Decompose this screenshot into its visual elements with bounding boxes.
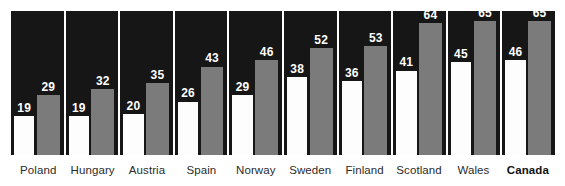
bar-series-b: [528, 21, 551, 155]
bar-series-a: [123, 114, 143, 155]
category-label-wales: Wales: [446, 160, 500, 180]
category-label-canada: Canada: [501, 160, 555, 180]
chart-panel: 45 65: [448, 11, 503, 155]
chart-panel: 26 43: [175, 11, 230, 155]
chart-panel: 36 53: [339, 11, 394, 155]
bar-series-a: [232, 95, 252, 155]
bar-series-a: [451, 62, 471, 155]
bar-value-label-a: 26: [178, 87, 198, 100]
bar-value-label-a: 46: [505, 46, 525, 59]
bar-series-b: [364, 46, 387, 155]
chart-panel: 19 29: [11, 11, 66, 155]
category-label-norway: Norway: [229, 160, 283, 180]
category-label-spain: Spain: [174, 160, 228, 180]
bar-series-b: [474, 21, 497, 155]
bar-value-label-a: 19: [69, 102, 89, 115]
bar-value-label-a: 36: [342, 67, 362, 80]
category-label-hungary: Hungary: [65, 160, 119, 180]
chart-panel: 29 46: [229, 11, 284, 155]
panel-bars: 29 46: [232, 11, 280, 155]
panel-bars: 36 53: [342, 11, 390, 155]
bar-series-b: [201, 67, 224, 155]
bar-value-label-a: 41: [396, 56, 416, 69]
panel-bars: 45 65: [451, 11, 499, 155]
bar-series-a: [69, 116, 89, 155]
panel-bars: 46 65: [505, 11, 553, 155]
bar-series-b: [37, 95, 60, 155]
bar-series-a: [287, 77, 307, 155]
bar-value-label-a: 19: [14, 102, 34, 115]
bar-value-label-b: 53: [364, 32, 387, 45]
bar-value-label-b: 46: [255, 46, 278, 59]
chart-panel: 41 64: [393, 11, 448, 155]
bar-series-b: [255, 60, 278, 155]
bar-value-label-a: 38: [287, 63, 307, 76]
category-axis-labels: Poland Hungary Austria Spain Norway Swed…: [11, 160, 555, 180]
category-label-finland: Finland: [337, 160, 391, 180]
grouped-bar-chart: 19 29 19 32 20 35 26: [0, 0, 565, 186]
category-label-scotland: Scotland: [392, 160, 446, 180]
bar-series-b: [146, 83, 169, 155]
bar-value-label-b: 32: [91, 75, 114, 88]
bar-series-b: [91, 89, 114, 155]
category-label-sweden: Sweden: [283, 160, 337, 180]
panel-bars: 20 35: [123, 11, 171, 155]
bar-series-a: [396, 71, 416, 155]
bar-value-label-b: 29: [37, 81, 60, 94]
category-label-poland: Poland: [11, 160, 65, 180]
bar-series-a: [342, 81, 362, 155]
bar-series-b: [310, 48, 333, 155]
bar-value-label-b: 65: [474, 7, 497, 20]
bar-value-label-b: 35: [146, 69, 169, 82]
chart-panel: 19 32: [66, 11, 121, 155]
bar-value-label-a: 29: [232, 81, 252, 94]
bar-series-a: [14, 116, 34, 155]
chart-panel: 38 52: [284, 11, 339, 155]
chart-panel: 20 35: [120, 11, 175, 155]
panel-bars: 19 29: [14, 11, 62, 155]
panel-bars: 41 64: [396, 11, 444, 155]
bar-series-b: [419, 23, 442, 155]
bar-value-label-a: 45: [451, 48, 471, 61]
panel-bars: 38 52: [287, 11, 335, 155]
bar-series-a: [178, 102, 198, 155]
panel-bars: 19 32: [69, 11, 117, 155]
bar-value-label-b: 52: [310, 34, 333, 47]
bar-value-label-a: 20: [123, 100, 143, 113]
panel-bars: 26 43: [178, 11, 226, 155]
bar-value-label-b: 64: [419, 9, 442, 22]
bar-value-label-b: 65: [528, 7, 551, 20]
chart-panels: 19 29 19 32 20 35 26: [11, 11, 555, 155]
bar-series-a: [505, 60, 525, 155]
chart-panel: 46 65: [502, 11, 555, 155]
bar-value-label-b: 43: [201, 52, 224, 65]
category-label-austria: Austria: [120, 160, 174, 180]
